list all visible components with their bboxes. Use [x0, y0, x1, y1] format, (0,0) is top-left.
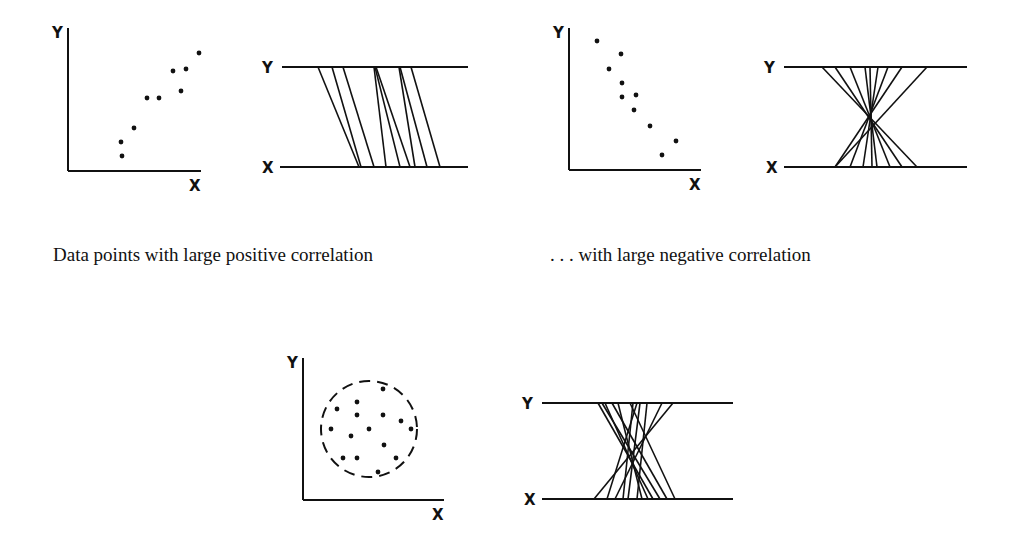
connector-line	[332, 67, 361, 167]
caption-positive-correlation: Data points with large positive correlat…	[53, 244, 373, 266]
data-point	[355, 400, 360, 405]
data-point	[632, 108, 637, 113]
parallel-plot-zero: YX	[521, 395, 733, 509]
data-point	[335, 407, 340, 412]
y-parallel-label: Y	[261, 59, 274, 77]
data-point	[607, 67, 612, 72]
x-axis-label: X	[689, 176, 701, 194]
x-parallel-label: X	[766, 159, 778, 177]
data-point	[634, 93, 639, 98]
y-parallel-label: Y	[763, 59, 776, 77]
connector-line	[411, 67, 440, 167]
connector-line	[835, 67, 927, 167]
data-point	[132, 126, 137, 131]
data-point	[620, 95, 625, 100]
data-point	[179, 89, 184, 94]
data-point	[376, 470, 381, 475]
panel-positive: YXYX	[51, 24, 468, 195]
data-point	[399, 419, 404, 424]
connector-line	[374, 67, 386, 167]
connector-line	[375, 67, 400, 167]
x-axis-label: X	[189, 177, 201, 195]
connector-line	[612, 403, 667, 499]
data-point	[409, 427, 414, 432]
y-parallel-label: Y	[521, 395, 534, 413]
data-point	[381, 387, 386, 392]
data-point	[120, 154, 125, 159]
data-point	[648, 124, 653, 129]
connector-line	[318, 67, 359, 167]
parallel-plot-positive: YX	[261, 59, 468, 177]
connector-line	[400, 67, 427, 167]
y-axis-label: Y	[286, 354, 299, 372]
connector-line	[343, 67, 374, 167]
data-point	[382, 443, 387, 448]
correlation-diagram: YXYXYXYXYXYX	[0, 0, 1017, 549]
data-point	[381, 413, 386, 418]
data-point	[349, 434, 354, 439]
data-point	[119, 140, 124, 145]
x-parallel-label: X	[262, 159, 274, 177]
connector-line	[630, 403, 675, 499]
data-point	[355, 456, 360, 461]
panel-negative: YXYX	[552, 24, 967, 194]
data-point	[619, 52, 624, 57]
data-point	[145, 96, 150, 101]
data-point	[620, 81, 625, 86]
scatter-plot-negative: YX	[552, 24, 701, 194]
data-point	[184, 67, 189, 72]
scatter-plot-positive: YX	[51, 24, 201, 195]
data-point	[394, 456, 399, 461]
y-axis-label: Y	[552, 24, 565, 42]
data-point	[171, 69, 176, 74]
data-point	[674, 139, 679, 144]
data-point	[341, 456, 346, 461]
caption-negative-correlation: . . . with large negative correlation	[550, 244, 811, 266]
data-point	[157, 96, 162, 101]
data-point	[660, 153, 665, 158]
connector-line	[376, 67, 410, 167]
scatter-plot-zero: YX	[286, 354, 444, 524]
x-parallel-label: X	[524, 491, 536, 509]
data-point	[197, 51, 202, 56]
data-point	[595, 39, 600, 44]
connector-line	[399, 67, 415, 167]
parallel-plot-negative: YX	[763, 59, 967, 177]
data-point	[367, 427, 372, 432]
y-axis-label: Y	[51, 24, 64, 42]
x-axis-label: X	[432, 506, 444, 524]
data-point	[355, 413, 360, 418]
panel-zero: YXYX	[286, 354, 733, 524]
data-point	[329, 427, 334, 432]
